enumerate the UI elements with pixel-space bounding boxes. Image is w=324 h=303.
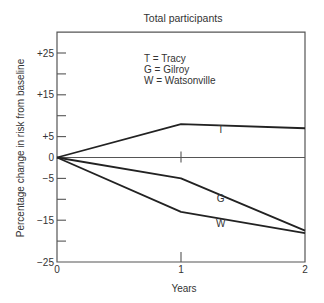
chart-title: Total participants: [144, 12, 223, 24]
y-tick-label: +15: [37, 89, 54, 100]
line-chart: Total participants +25+15+50−5−15−25 012…: [0, 0, 324, 303]
x-axis-label: Years: [171, 283, 196, 294]
legend-entry-gilroy: G = Gilroy: [144, 64, 189, 75]
x-tick-label: 1: [178, 264, 184, 275]
series-label-watsonville: W: [216, 218, 226, 229]
series-label-gilroy: G: [217, 193, 225, 204]
x-tick-label: 0: [54, 264, 60, 275]
legend-entry-tracy: T = Tracy: [144, 53, 186, 64]
legend: T = Tracy G = Gilroy W = Watsonville: [144, 53, 216, 86]
y-tick-label: +5: [43, 131, 55, 142]
y-tick-label: 0: [48, 152, 54, 163]
y-tick-label: −15: [37, 215, 54, 226]
series-label-tracy: T: [218, 124, 224, 135]
x-axis-ticks: 012: [54, 152, 308, 276]
y-tick-label: +25: [37, 48, 54, 59]
series-line-gilroy: [57, 158, 305, 231]
legend-entry-watsonville: W = Watsonville: [144, 75, 216, 86]
series-line-watsonville: [57, 158, 305, 234]
y-tick-label: −5: [43, 173, 55, 184]
y-tick-label: −25: [37, 257, 54, 268]
series-lines: TGW: [57, 124, 305, 233]
y-axis-label: Percentage change in risk from baseline: [15, 58, 26, 237]
x-tick-label: 2: [302, 264, 308, 275]
